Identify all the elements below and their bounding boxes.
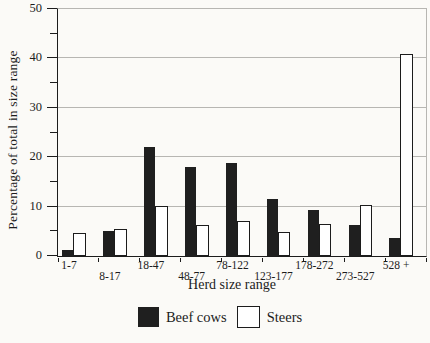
legend-label-steers: Steers bbox=[267, 309, 302, 326]
bar-beef-cows-1-7 bbox=[62, 250, 73, 256]
x-tick-label-1-7: 1-7 bbox=[61, 260, 76, 272]
bar-steers-78-122 bbox=[237, 221, 250, 256]
bar-steers-48-77 bbox=[196, 225, 209, 256]
x-tick-7 bbox=[344, 258, 345, 262]
bar-steers-8-17 bbox=[114, 229, 127, 256]
x-tick-8 bbox=[385, 258, 386, 262]
bar-beef-cows-528 + bbox=[389, 238, 400, 256]
y-tick-label-50: 50 bbox=[14, 2, 42, 15]
y-tick-20 bbox=[47, 156, 57, 157]
x-tick-3 bbox=[180, 258, 181, 262]
x-tick-2 bbox=[139, 258, 140, 262]
bar-beef-cows-48-77 bbox=[185, 167, 196, 256]
y-tick-40 bbox=[47, 57, 57, 58]
y-tick-label-30: 30 bbox=[14, 101, 42, 114]
plot-area: 1-78-1718-4748-7778-122123-177178-272273… bbox=[57, 8, 427, 257]
category-group-78-122: 78-122 bbox=[222, 9, 263, 256]
legend: Beef cows Steers bbox=[0, 306, 430, 328]
category-group-178-272: 178-272 bbox=[303, 9, 344, 256]
y-tick-0 bbox=[47, 255, 57, 256]
bar-steers-1-7 bbox=[73, 233, 86, 256]
bar-beef-cows-273-527 bbox=[349, 225, 360, 256]
y-minor-tick-5 bbox=[50, 230, 57, 231]
category-group-18-47: 18-47 bbox=[140, 9, 181, 256]
x-tick-label-528 +: 528 + bbox=[383, 260, 410, 272]
y-minor-tick-15 bbox=[50, 181, 57, 182]
x-tick-1 bbox=[98, 258, 99, 262]
bar-steers-18-47 bbox=[155, 206, 168, 256]
category-group-273-527: 273-527 bbox=[344, 9, 385, 256]
x-axis-title: Herd size range bbox=[40, 277, 424, 293]
x-tick-6 bbox=[303, 258, 304, 262]
bar-beef-cows-78-122 bbox=[226, 163, 237, 256]
bar-steers-123-177 bbox=[278, 232, 291, 256]
x-tick-label-78-122: 78-122 bbox=[216, 260, 249, 272]
bar-beef-cows-18-47 bbox=[144, 147, 155, 256]
y-tick-label-10: 10 bbox=[14, 200, 42, 213]
legend-swatch-steers bbox=[237, 306, 260, 328]
category-group-528 +: 528 + bbox=[385, 9, 426, 256]
x-tick-0 bbox=[58, 258, 59, 262]
category-group-123-177: 123-177 bbox=[262, 9, 303, 256]
y-tick-30 bbox=[47, 107, 57, 108]
bar-chart-figure: Percentage of total in size range 1-78-1… bbox=[0, 0, 430, 343]
bar-steers-178-272 bbox=[319, 224, 332, 256]
x-tick-5 bbox=[262, 258, 263, 262]
category-group-1-7: 1-7 bbox=[58, 9, 99, 256]
x-tick-label-178-272: 178-272 bbox=[295, 260, 333, 272]
x-tick-label-18-47: 18-47 bbox=[137, 260, 164, 272]
y-tick-label-0: 0 bbox=[14, 249, 42, 262]
x-tick-4 bbox=[221, 258, 222, 262]
y-minor-tick-25 bbox=[50, 132, 57, 133]
legend-swatch-beef-cows bbox=[138, 307, 159, 327]
y-minor-tick-45 bbox=[50, 33, 57, 34]
bar-beef-cows-123-177 bbox=[267, 199, 278, 256]
y-tick-10 bbox=[47, 206, 57, 207]
y-tick-label-20: 20 bbox=[14, 150, 42, 163]
bar-beef-cows-178-272 bbox=[308, 210, 319, 256]
y-tick-label-40: 40 bbox=[14, 51, 42, 64]
x-tick-9 bbox=[426, 258, 427, 262]
bar-beef-cows-8-17 bbox=[103, 231, 114, 256]
bar-steers-528 + bbox=[400, 54, 413, 256]
y-minor-tick-35 bbox=[50, 82, 57, 83]
category-group-48-77: 48-77 bbox=[181, 9, 222, 256]
bar-steers-273-527 bbox=[360, 205, 373, 256]
category-group-8-17: 8-17 bbox=[99, 9, 140, 256]
legend-label-beef-cows: Beef cows bbox=[166, 309, 227, 326]
y-tick-50 bbox=[47, 8, 57, 9]
